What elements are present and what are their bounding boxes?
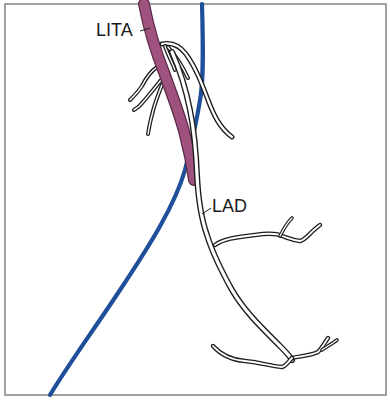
- septal-branches-left: [130, 67, 162, 134]
- coronary-diagram: LITA LAD: [0, 0, 390, 403]
- lad-artery: [162, 43, 337, 367]
- label-lad: LAD: [212, 196, 247, 216]
- label-lita: LITA: [96, 20, 133, 40]
